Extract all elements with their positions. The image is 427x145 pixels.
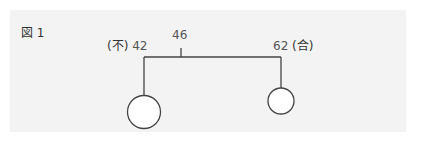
bracket-diagram [0, 0, 427, 145]
right-circle [268, 88, 294, 114]
left-circle [128, 96, 161, 129]
